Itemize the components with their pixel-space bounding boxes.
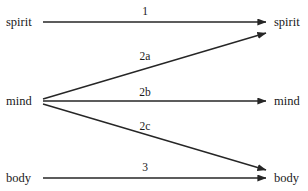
edge-label-2c: 2c [132,121,158,133]
node-mind-right: mind [274,95,300,108]
edge-2c-line [43,104,266,170]
node-spirit-left: spirit [6,16,32,29]
diagram-canvas: spirit mind body spirit mind body 1 2a 2… [0,0,308,191]
edge-label-2a: 2a [132,51,158,63]
node-spirit-right: spirit [274,16,300,29]
node-mind-left: mind [6,95,32,108]
node-body-right: body [274,172,299,185]
edge-label-3: 3 [134,162,156,174]
node-body-left: body [6,172,31,185]
edge-label-2b: 2b [132,87,158,99]
edge-label-1: 1 [134,6,156,18]
